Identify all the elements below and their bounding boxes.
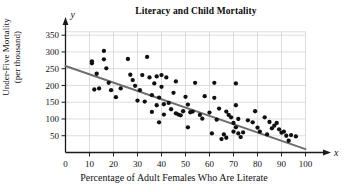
svg-text:300: 300 [46,47,60,57]
data-points [90,49,298,143]
svg-text:250: 250 [46,64,60,74]
svg-text:90: 90 [277,159,287,169]
svg-text:10: 10 [85,159,95,169]
svg-text:70: 70 [229,159,239,169]
svg-text:100: 100 [46,114,60,124]
y-axis-variable-label: y [70,9,76,20]
svg-text:150: 150 [46,97,60,107]
gridlines [66,32,306,153]
svg-text:50: 50 [50,131,60,141]
axis-tick-labels: 0102030405060708090100501001502002503003… [46,30,313,169]
x-axis-label: Percentage of Adult Females Who Are Lite… [34,172,314,183]
svg-text:0: 0 [63,159,68,169]
svg-text:50: 50 [181,159,191,169]
svg-text:30: 30 [133,159,143,169]
chart-figure: Literacy and Child Mortality 01020304050… [0,0,349,192]
svg-text:60: 60 [205,159,215,169]
axis-ticks [62,35,306,156]
svg-text:20: 20 [109,159,119,169]
svg-text:350: 350 [46,30,60,40]
svg-text:200: 200 [46,81,60,91]
svg-text:80: 80 [253,159,263,169]
x-axis-variable-label: x [333,147,339,158]
scatter-plot: 0102030405060708090100501001502002503003… [0,0,349,192]
svg-text:40: 40 [157,159,167,169]
svg-text:100: 100 [299,159,313,169]
